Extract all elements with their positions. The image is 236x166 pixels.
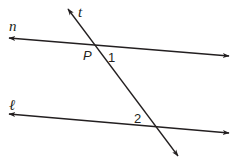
label-n: n	[9, 18, 17, 34]
transversal-t	[68, 9, 178, 156]
label-t: t	[78, 4, 83, 20]
label-l: ℓ	[9, 97, 15, 113]
label-point-p: P	[83, 48, 92, 63]
geometry-diagram: n t P 1 ℓ 2	[0, 0, 236, 166]
line-n	[9, 38, 229, 56]
label-angle-2: 2	[134, 111, 141, 126]
line-l	[9, 114, 229, 133]
label-angle-1: 1	[108, 50, 115, 65]
